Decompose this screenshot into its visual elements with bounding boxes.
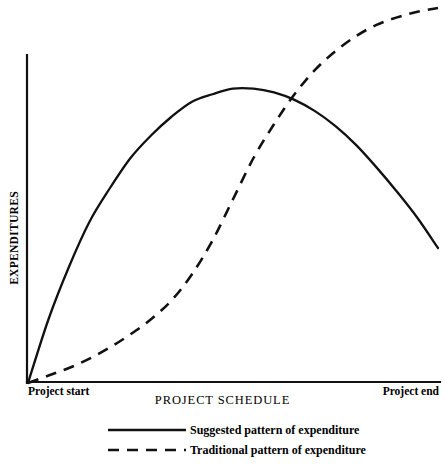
x-axis-label: PROJECT SCHEDULE [0, 393, 445, 408]
series-line-traditional [28, 8, 438, 383]
y-axis-label: EXPENDITURES [8, 173, 20, 303]
series-line-suggested-path [28, 88, 438, 383]
legend-label-traditional: Traditional pattern of expenditure [190, 443, 366, 458]
legend-label-suggested: Suggested pattern of expenditure [190, 423, 359, 438]
expenditure-chart: EXPENDITURES Project start Project end P… [0, 0, 445, 470]
